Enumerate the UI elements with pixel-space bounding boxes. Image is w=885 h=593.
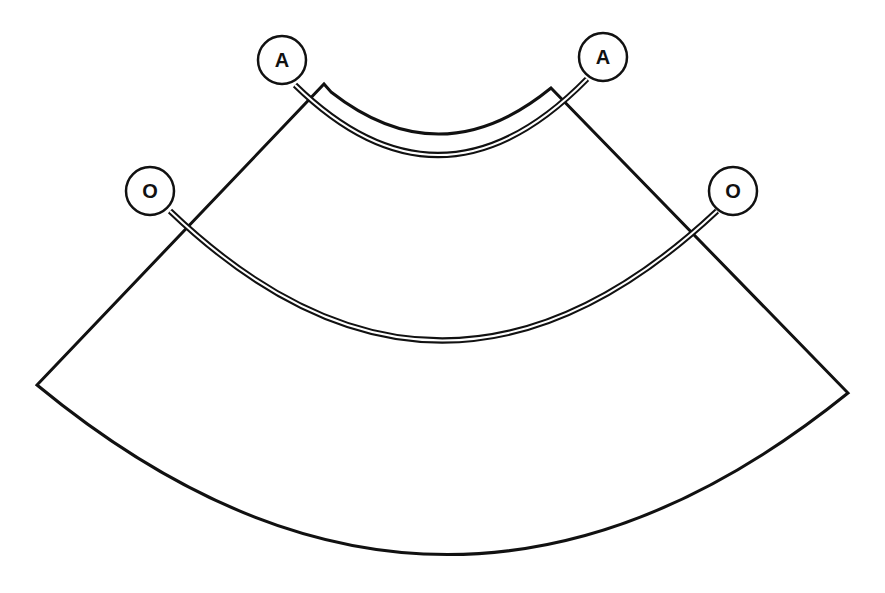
arc-o xyxy=(170,211,717,341)
marker-label: A xyxy=(275,49,289,71)
diagram-canvas: A A O O xyxy=(0,0,885,593)
marker-a-right: A xyxy=(579,33,627,81)
arc-a xyxy=(295,79,587,155)
marker-label: O xyxy=(725,180,741,202)
marker-o-left: O xyxy=(126,167,174,215)
marker-a-left: A xyxy=(258,36,306,84)
marker-o-right: O xyxy=(709,167,757,215)
marker-label: O xyxy=(142,180,158,202)
marker-label: A xyxy=(596,46,610,68)
